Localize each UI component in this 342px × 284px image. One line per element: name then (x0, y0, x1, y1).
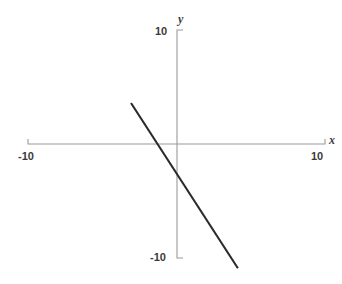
x-axis-max-tick-label: 10 (311, 150, 323, 162)
graph-plot-area: 10 -10 -10 10 y x (0, 0, 342, 284)
data-line-series-0 (131, 103, 238, 268)
y-axis-name-label: y (178, 12, 183, 27)
x-axis-min-tick-label: -10 (18, 150, 34, 162)
y-axis-min-tick-label: -10 (150, 251, 166, 263)
y-axis-max-tick-label: 10 (155, 25, 167, 37)
x-axis-name-label: x (329, 133, 335, 148)
coordinate-plane-svg (0, 0, 342, 284)
